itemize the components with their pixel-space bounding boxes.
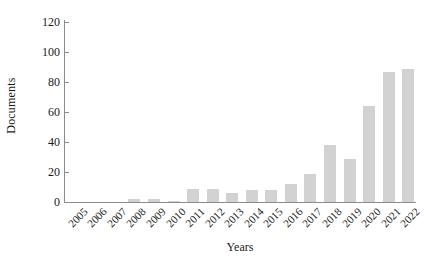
- bar: [207, 189, 219, 203]
- y-axis-tick-label: 80: [4, 76, 60, 88]
- x-axis-title: Years: [64, 240, 416, 255]
- bar: [265, 190, 277, 202]
- y-axis-tick-label: 100: [4, 46, 60, 58]
- bar: [304, 174, 316, 203]
- y-axis-tick-label: 40: [4, 136, 60, 148]
- y-axis-tick-label: 20: [4, 166, 60, 178]
- bar: [226, 193, 238, 202]
- y-axis-tick: [64, 82, 69, 83]
- y-axis-tick: [64, 22, 69, 23]
- bars-layer: [64, 22, 416, 202]
- y-axis-tick: [64, 202, 69, 203]
- y-axis-tick-label: 120: [4, 16, 60, 28]
- y-axis-tick-label: 0: [4, 196, 60, 208]
- bar: [128, 199, 140, 202]
- y-axis-tick: [64, 112, 69, 113]
- y-axis-tick: [64, 172, 69, 173]
- bar: [168, 201, 180, 203]
- bar: [363, 106, 375, 202]
- bar: [402, 69, 414, 203]
- y-axis-tick-labels: 020406080100120: [0, 0, 60, 263]
- bar: [246, 190, 258, 202]
- x-axis-tick-labels: 2005200620072008200920102011201220132014…: [64, 203, 416, 243]
- bar: [187, 189, 199, 203]
- bar: [383, 72, 395, 203]
- bar: [344, 159, 356, 203]
- bar: [285, 184, 297, 202]
- y-axis-tick-label: 60: [4, 106, 60, 118]
- y-axis-tick: [64, 52, 69, 53]
- bar: [324, 145, 336, 202]
- bar-chart: Documents 020406080100120 20052006200720…: [0, 0, 426, 263]
- bar: [148, 199, 160, 202]
- y-axis-tick: [64, 142, 69, 143]
